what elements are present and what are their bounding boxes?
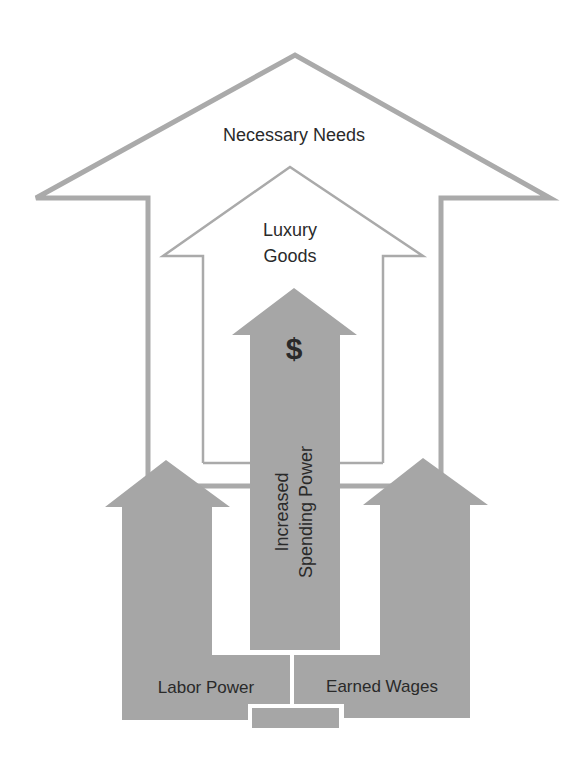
base-block — [252, 708, 339, 728]
luxury-goods-label-line2: Goods — [263, 246, 316, 266]
earned-wages-label: Earned Wages — [326, 677, 438, 696]
luxury-goods-label-line1: Luxury — [263, 220, 317, 240]
spending-power-diagram: Necessary Needs Luxury Goods $ Increased… — [0, 0, 584, 761]
increased-label: Increased — [272, 472, 292, 551]
dollar-sign-icon: $ — [286, 332, 303, 365]
necessary-needs-label: Necessary Needs — [223, 125, 365, 145]
spending-power-label: Spending Power — [296, 446, 316, 578]
labor-power-label: Labor Power — [158, 678, 255, 697]
